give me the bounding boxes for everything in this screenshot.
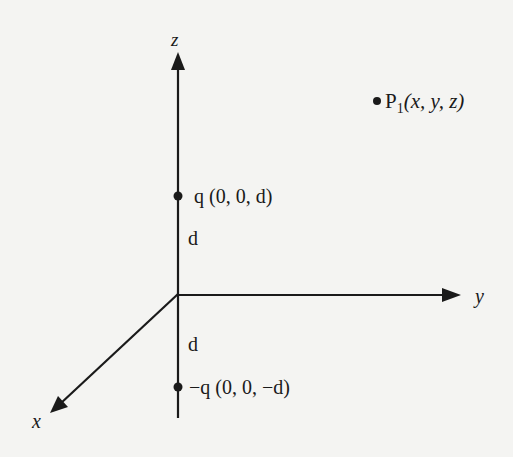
point-p1-coords: (x, y, z) bbox=[404, 89, 465, 113]
z-axis: z bbox=[170, 29, 185, 418]
charge-positive: q (0, 0, d) bbox=[174, 185, 273, 208]
coordinate-system-diagram: z y x P1(x, y, z) q (0, 0, d) bbox=[0, 0, 513, 457]
z-axis-label: z bbox=[170, 29, 179, 50]
charge-negative-label: −q (0, 0, −d) bbox=[189, 376, 290, 399]
charge-negative-dot-icon bbox=[174, 383, 183, 392]
point-p1-dot-icon bbox=[373, 97, 381, 105]
charge-positive-label: q (0, 0, d) bbox=[194, 185, 272, 208]
charge-positive-dot-icon bbox=[174, 192, 183, 201]
y-axis: y bbox=[178, 285, 484, 308]
x-axis: x bbox=[31, 294, 178, 432]
point-p1-subscript: 1 bbox=[397, 101, 404, 116]
diagram-canvas: z y x P1(x, y, z) q (0, 0, d) bbox=[0, 0, 513, 457]
svg-text:P1(x, y, z): P1(x, y, z) bbox=[385, 89, 464, 116]
z-axis-arrow-icon bbox=[171, 52, 185, 70]
x-axis-label: x bbox=[31, 410, 41, 432]
distance-label-lower: d bbox=[188, 333, 198, 355]
point-p1: P1(x, y, z) bbox=[373, 89, 464, 116]
y-axis-arrow-icon bbox=[442, 288, 461, 302]
distance-label-upper: d bbox=[188, 227, 198, 249]
point-p1-name: P bbox=[385, 89, 397, 113]
charge-negative: −q (0, 0, −d) bbox=[174, 376, 290, 399]
y-axis-label: y bbox=[473, 285, 484, 308]
